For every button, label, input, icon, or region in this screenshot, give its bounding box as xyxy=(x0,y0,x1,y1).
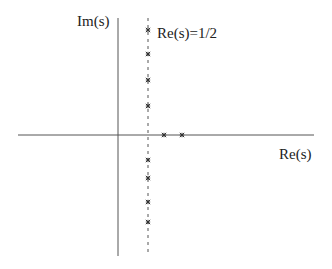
real-point-marker-icon xyxy=(162,133,166,137)
real-axis-label: Re(s) xyxy=(279,146,312,163)
zero-marker-icon xyxy=(146,28,150,32)
zero-marker-icon xyxy=(146,200,150,204)
critical-line-label: Re(s)=1/2 xyxy=(157,25,217,42)
real-point-marker-icon xyxy=(180,133,184,137)
zero-marker-icon xyxy=(146,176,150,180)
imaginary-axis-label: Im(s) xyxy=(77,13,110,30)
zero-marker-icon xyxy=(146,78,150,82)
zero-marker-icon xyxy=(146,52,150,56)
zero-marker-icon xyxy=(146,104,150,108)
zero-marker-icon xyxy=(146,158,150,162)
zero-marker-icon xyxy=(146,220,150,224)
complex-plane-diagram: Im(s) Re(s)=1/2 Re(s) xyxy=(0,0,332,269)
